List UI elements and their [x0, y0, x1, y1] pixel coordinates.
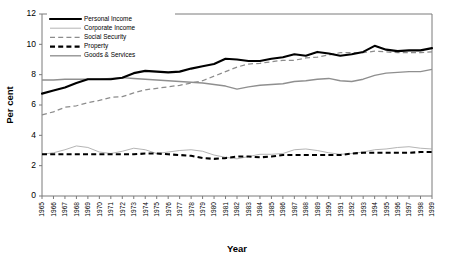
x-tick-label: 1988 [302, 202, 309, 217]
x-tick-label: 1995 [383, 202, 390, 217]
x-tick-label: 1987 [291, 202, 298, 217]
x-tick-label: 1996 [394, 202, 401, 217]
y-tick-label: 12 [27, 8, 37, 18]
series-layer [42, 46, 432, 159]
x-tick-label: 1983 [245, 202, 252, 217]
x-tick-label: 1990 [325, 202, 332, 217]
x-tick-label: 1977 [176, 202, 183, 217]
y-axis-title: Per cent [4, 85, 15, 123]
x-tick-label: 1991 [337, 202, 344, 217]
y-tick-label: 6 [31, 99, 36, 109]
chart-container: 024681012 196519661967196819691970197119… [0, 0, 453, 258]
x-tick-label: 1993 [360, 202, 367, 217]
x-tick-label: 1968 [73, 202, 80, 217]
y-axis-tick-labels: 024681012 [27, 8, 37, 200]
x-tick-label: 1979 [199, 202, 206, 217]
x-tick-label: 1976 [165, 202, 172, 217]
y-tick-label: 4 [31, 130, 36, 140]
x-tick-label: 1973 [130, 202, 137, 217]
x-tick-label: 1975 [153, 202, 160, 217]
x-tick-label: 1982 [233, 202, 240, 217]
x-tick-label: 1989 [314, 202, 321, 217]
x-tick-label: 1998 [417, 202, 424, 217]
x-tick-label: 1981 [222, 202, 229, 217]
x-tick-label: 1967 [61, 202, 68, 217]
x-axis-tick-labels: 1965196619671968196919701971197219731974… [38, 202, 435, 217]
x-axis-title: Year [227, 243, 247, 254]
y-tick-label: 8 [31, 69, 36, 79]
x-tick-label: 1972 [119, 202, 126, 217]
x-tick-label: 1985 [268, 202, 275, 217]
x-tick-label: 1980 [210, 202, 217, 217]
x-tick-label: 1971 [107, 202, 114, 217]
x-tick-label: 1997 [405, 202, 412, 217]
y-tick-label: 2 [31, 160, 36, 170]
series-line-property [42, 152, 432, 159]
legend-label-property: Property [84, 42, 109, 50]
x-tick-label: 1999 [428, 202, 435, 217]
x-tick-label: 1992 [348, 202, 355, 217]
x-tick-label: 1969 [84, 202, 91, 217]
chart-legend: Personal IncomeCorporate IncomeSocial Se… [47, 13, 175, 62]
x-tick-label: 1984 [256, 202, 263, 217]
legend-label-goods-services: Goods & Services [84, 51, 135, 58]
legend-label-personal-income: Personal Income [84, 15, 132, 22]
y-tick-label: 10 [27, 39, 37, 49]
legend-label-social-security: Social Security [84, 33, 127, 41]
y-tick-label: 0 [31, 190, 36, 200]
x-tick-label: 1970 [96, 202, 103, 217]
x-tick-label: 1966 [50, 202, 57, 217]
x-tick-label: 1978 [188, 202, 195, 217]
line-chart: 024681012 196519661967196819691970197119… [0, 0, 453, 258]
x-tick-label: 1974 [142, 202, 149, 217]
legend-label-corporate-income: Corporate Income [84, 24, 136, 32]
x-tick-label: 1994 [371, 202, 378, 217]
x-tick-label: 1965 [38, 202, 45, 217]
x-tick-label: 1986 [279, 202, 286, 217]
